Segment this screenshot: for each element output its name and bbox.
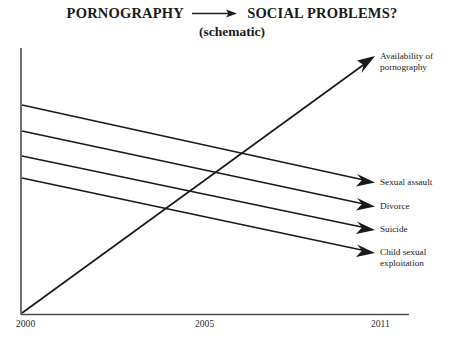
series-label-sexual-assault: Sexual assault [380,177,432,188]
x-tick-2000: 2000 [16,318,35,329]
series-line-availability [22,56,375,313]
x-tick-2005: 2005 [195,318,214,329]
series-label-child-sexual-exploitation: Child sexual exploitation [380,247,426,269]
x-tick-2011: 2011 [371,318,390,329]
series-label-divorce: Divorce [380,201,410,212]
series-label-availability: Availability of pornography [380,51,433,73]
series-label-suicide: Suicide [380,224,408,235]
series-line-sexual-assault [22,105,375,187]
schematic-figure: PORNOGRAPHY SOCIAL PROBLEMS? (schematic) [0,0,464,344]
series-line-child-sexual-exploitation [22,178,375,257]
